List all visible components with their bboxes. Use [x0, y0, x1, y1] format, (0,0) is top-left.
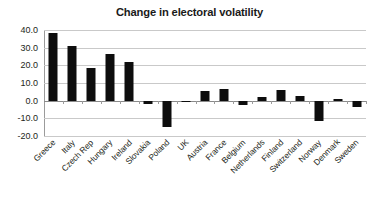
- bar: [238, 101, 247, 105]
- chart-figure: Change in electoral volatility 40.030.02…: [0, 0, 379, 197]
- x-axis: GreeceItalyCzech RepHungaryIrelandSlovak…: [44, 136, 366, 197]
- bar: [200, 91, 209, 100]
- bar: [182, 101, 191, 102]
- bar: [49, 33, 58, 101]
- y-axis-tick-label: 10.0: [20, 79, 38, 88]
- bar: [219, 89, 228, 100]
- bar: [257, 97, 266, 101]
- bar-slot: [139, 30, 158, 136]
- bar-slot: [177, 30, 196, 136]
- bar: [106, 54, 115, 100]
- bar-slot: [214, 30, 233, 136]
- bar: [163, 101, 172, 128]
- bar-slot: [252, 30, 271, 136]
- y-axis-tick-label: -10.0: [17, 114, 38, 123]
- bar-slot: [82, 30, 101, 136]
- bar-slot: [63, 30, 82, 136]
- bar: [125, 62, 134, 101]
- bar-slot: [196, 30, 215, 136]
- bar: [144, 101, 153, 104]
- x-axis-tick: [366, 101, 367, 104]
- bar-slot: [120, 30, 139, 136]
- bar: [314, 101, 323, 121]
- y-axis-tick-label: -20.0: [17, 132, 38, 141]
- bar-slot: [271, 30, 290, 136]
- y-axis: 40.030.020.010.00.0-10.0-20.0: [2, 30, 40, 136]
- x-axis-tick-label: Poland: [147, 138, 171, 162]
- chart-title: Change in electoral volatility: [0, 6, 379, 18]
- y-axis-tick-label: 40.0: [20, 26, 38, 35]
- bar-slot: [290, 30, 309, 136]
- bar-slot: [328, 30, 347, 136]
- y-axis-tick-label: 30.0: [20, 43, 38, 52]
- bar: [276, 90, 285, 101]
- bar-series: [44, 30, 366, 136]
- bar: [333, 99, 342, 100]
- bar: [352, 101, 361, 108]
- bar: [87, 68, 96, 100]
- y-axis-tick-label: 0.0: [25, 96, 38, 105]
- bar-slot: [309, 30, 328, 136]
- bar-slot: [101, 30, 120, 136]
- plot-area: [44, 30, 366, 136]
- bar-slot: [347, 30, 366, 136]
- x-axis-tick-label: Greece: [32, 138, 57, 163]
- bar-slot: [44, 30, 63, 136]
- bar-slot: [233, 30, 252, 136]
- bar: [295, 96, 304, 100]
- bar: [68, 46, 77, 101]
- bar-slot: [158, 30, 177, 136]
- y-axis-tick-label: 20.0: [20, 61, 38, 70]
